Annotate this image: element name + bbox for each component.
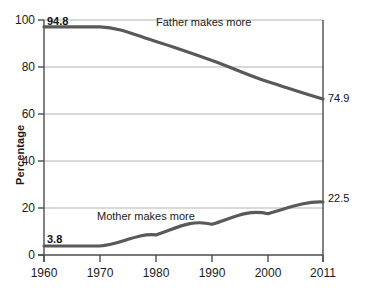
y-axis-tick-label-0: 0 — [5, 248, 35, 262]
data-label-father-1960: 94.8 — [47, 15, 68, 27]
series-line-mother-makes-more — [44, 202, 323, 246]
series-annotation-father-makes-more: Father makes more — [156, 16, 251, 28]
y-axis-tick-label-100: 100 — [5, 13, 35, 27]
x-axis-tick-label-1980: 1980 — [132, 266, 180, 280]
data-label-mother-2011: 22.5 — [328, 192, 349, 204]
x-axis-tick-label-1990: 1990 — [188, 266, 236, 280]
y-axis-tick-label-60: 60 — [5, 107, 35, 121]
y-axis-ticks — [38, 20, 44, 255]
y-axis-tick-label-20: 20 — [5, 201, 35, 215]
x-axis-tick-label-1970: 1970 — [76, 266, 124, 280]
series-annotation-mother-makes-more: Mother makes more — [97, 210, 195, 222]
x-axis-tick-label-2000: 2000 — [244, 266, 292, 280]
x-axis-tick-label-1960: 1960 — [20, 266, 68, 280]
x-axis-tick-label-2011: 2011 — [299, 266, 347, 280]
y-axis-tick-label-40: 40 — [5, 154, 35, 168]
data-label-father-2011: 74.9 — [328, 92, 349, 104]
line-chart: Percentage 100 80 60 40 20 0 1960 1970 1… — [0, 0, 366, 293]
x-axis-ticks — [44, 255, 323, 262]
series-line-father-makes-more — [44, 27, 323, 99]
y-axis-tick-label-80: 80 — [5, 60, 35, 74]
data-label-mother-1960: 3.8 — [47, 233, 62, 245]
gridlines — [44, 20, 323, 208]
chart-canvas — [0, 0, 366, 293]
